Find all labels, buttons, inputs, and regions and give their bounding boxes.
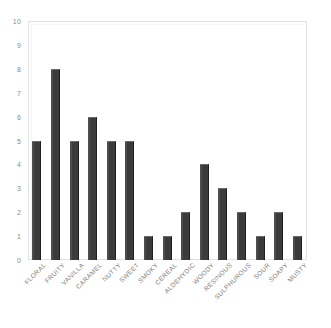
bar[interactable] — [144, 236, 153, 260]
x-axis-tick-label: MUSTY — [286, 262, 308, 284]
bar-slot — [29, 21, 45, 260]
x-axis-tick-label: FLORAL — [24, 262, 48, 286]
y-axis-tick-label: 0 — [17, 257, 21, 264]
bar-slot — [253, 21, 269, 260]
y-axis-tick-label: 6 — [17, 113, 21, 120]
bar-slot — [160, 21, 176, 260]
bar[interactable] — [218, 188, 227, 260]
bar-slot — [104, 21, 120, 260]
bar-slot — [234, 21, 250, 260]
x-axis: FLORALFRUITYVANILLACARAMELNUTTYSWEETSMOK… — [28, 262, 307, 328]
bar-slot — [290, 21, 306, 260]
y-axis-tick-label: 8 — [17, 65, 21, 72]
bar[interactable] — [237, 212, 246, 260]
y-axis-tick-label: 3 — [17, 185, 21, 192]
bar-slot — [178, 21, 194, 260]
bar-series — [28, 21, 307, 260]
y-axis-tick-label: 2 — [17, 209, 21, 216]
bar[interactable] — [274, 212, 283, 260]
bar-chart-screenshot: 109876543210 FLORALFRUITYVANILLACARAMELN… — [0, 0, 331, 328]
bar[interactable] — [51, 69, 60, 260]
bar-slot — [271, 21, 287, 260]
bar-slot — [197, 21, 213, 260]
y-axis-tick-label: 1 — [17, 233, 21, 240]
bar[interactable] — [200, 164, 209, 260]
y-axis-tick-label: 10 — [13, 18, 21, 25]
x-axis-tick-label: SULPHUROUS — [213, 262, 252, 301]
x-axis-tick-label: SOAPY — [268, 262, 290, 284]
y-axis: 109876543210 — [0, 21, 26, 260]
bar[interactable] — [32, 141, 41, 261]
bar[interactable] — [181, 212, 190, 260]
y-axis-tick-label: 4 — [17, 161, 21, 168]
bar-slot — [67, 21, 83, 260]
y-axis-tick-label: 9 — [17, 41, 21, 48]
y-axis-tick-label: 5 — [17, 137, 21, 144]
bar-slot — [122, 21, 138, 260]
bar-slot — [48, 21, 64, 260]
bar[interactable] — [163, 236, 172, 260]
bar[interactable] — [70, 141, 79, 261]
y-axis-tick-label: 7 — [17, 89, 21, 96]
bar[interactable] — [107, 141, 116, 261]
bar-slot — [85, 21, 101, 260]
bar-slot — [141, 21, 157, 260]
bar[interactable] — [293, 236, 302, 260]
bar[interactable] — [125, 141, 134, 261]
bar-slot — [215, 21, 231, 260]
bar[interactable] — [88, 117, 97, 260]
bar[interactable] — [256, 236, 265, 260]
